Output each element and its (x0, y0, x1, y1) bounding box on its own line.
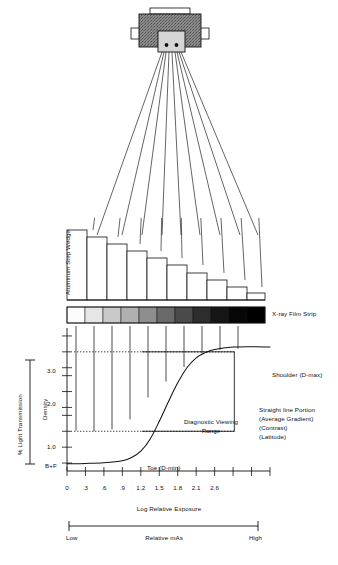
dvr-line-1: Diagnostic Viewing (174, 418, 248, 427)
beam-ray-4 (162, 52, 169, 235)
toe-annotation: Toe (D-min) (147, 464, 180, 473)
x-tick-label-6: 1.8 (169, 484, 187, 493)
film-strip-label: X-ray Film Strip (272, 310, 316, 319)
straight-line-portion-line-2: (Average Gradient) (259, 415, 315, 424)
x-tick-label-5: 1.5 (150, 484, 168, 493)
beam-ray-2 (122, 52, 164, 235)
x-tick-label-4: 1.2 (132, 484, 150, 493)
step-7 (187, 273, 207, 300)
film-step-10 (229, 307, 247, 323)
beam-ray-1 (97, 52, 162, 235)
relative-mas-low-label: Low (66, 534, 78, 543)
film-step-2 (85, 307, 103, 323)
straight-line-portion-line-3: (Contrast) (259, 424, 315, 433)
film-step-9 (211, 307, 229, 323)
x-tick-label-7: 2.1 (187, 484, 205, 493)
x-tick-label-2: .6 (95, 484, 113, 493)
step-wedge-steps (67, 230, 265, 300)
film-strip-steps (67, 307, 265, 323)
focal-spot-marker-left (165, 43, 169, 47)
straight-line-portion-annotation: Straight line Portion (Average Gradient)… (259, 406, 315, 442)
y-axis-title: Density (41, 399, 50, 420)
diagnostic-viewing-range-annotation: Diagnostic Viewing Range (174, 418, 248, 436)
step-10 (247, 293, 265, 300)
beam-ray-group (97, 52, 258, 235)
beam-ray-3 (142, 52, 166, 235)
figure-canvas: Aluminum Step Wedge X-ray Film Strip % L… (0, 0, 338, 565)
y-tick-label-bf: B+F (45, 462, 57, 471)
tube-mount-rail (150, 8, 190, 14)
step-8 (207, 280, 227, 300)
beam-ray-7 (177, 52, 220, 235)
aluminum-step-wedge (0, 218, 338, 304)
y-tick-label-1: 1.0 (47, 443, 56, 452)
y-tick-label-3: 3.0 (47, 367, 56, 376)
step-3 (107, 244, 127, 300)
beam-ray-5 (172, 52, 181, 235)
film-step-3 (103, 307, 121, 323)
dvr-line-2: Range (174, 427, 248, 436)
relative-mas-label: Relative mAs (124, 534, 204, 543)
density-curve (67, 347, 270, 464)
x-axis-title: Log Relative Exposure (69, 505, 269, 514)
step-4 (127, 251, 147, 300)
step-9 (227, 287, 247, 300)
projection-drop-lines (76, 326, 238, 431)
x-tick-label-1: .3 (76, 484, 94, 493)
beam-ray-9 (181, 52, 258, 235)
step-wedge-label: Aluminum Step Wedge (64, 230, 73, 295)
x-tick-label-8: 2.6 (206, 484, 224, 493)
straight-line-portion-line-4: (Latitude) (259, 433, 315, 442)
shoulder-annotation: Shoulder (D-max) (272, 371, 322, 380)
straight-line-portion-line-1: Straight line Portion (259, 406, 315, 415)
film-step-5 (139, 307, 157, 323)
x-tick-label-3: .9 (113, 484, 131, 493)
step-6 (167, 265, 187, 300)
film-step-1 (67, 307, 85, 323)
x-ray-beam (0, 50, 338, 240)
film-step-11 (247, 307, 265, 323)
beam-ray-8 (179, 52, 240, 235)
step-5 (147, 258, 167, 300)
film-step-7 (175, 307, 193, 323)
step-2 (87, 237, 107, 300)
x-tick-label-0: 0 (58, 484, 76, 493)
collimator (158, 31, 185, 52)
film-step-4 (121, 307, 139, 323)
film-step-6 (157, 307, 175, 323)
beam-ray-6 (175, 52, 200, 235)
relative-mas-high-label: High (249, 534, 262, 543)
film-step-8 (193, 307, 211, 323)
focal-spot-marker-right (175, 43, 179, 47)
